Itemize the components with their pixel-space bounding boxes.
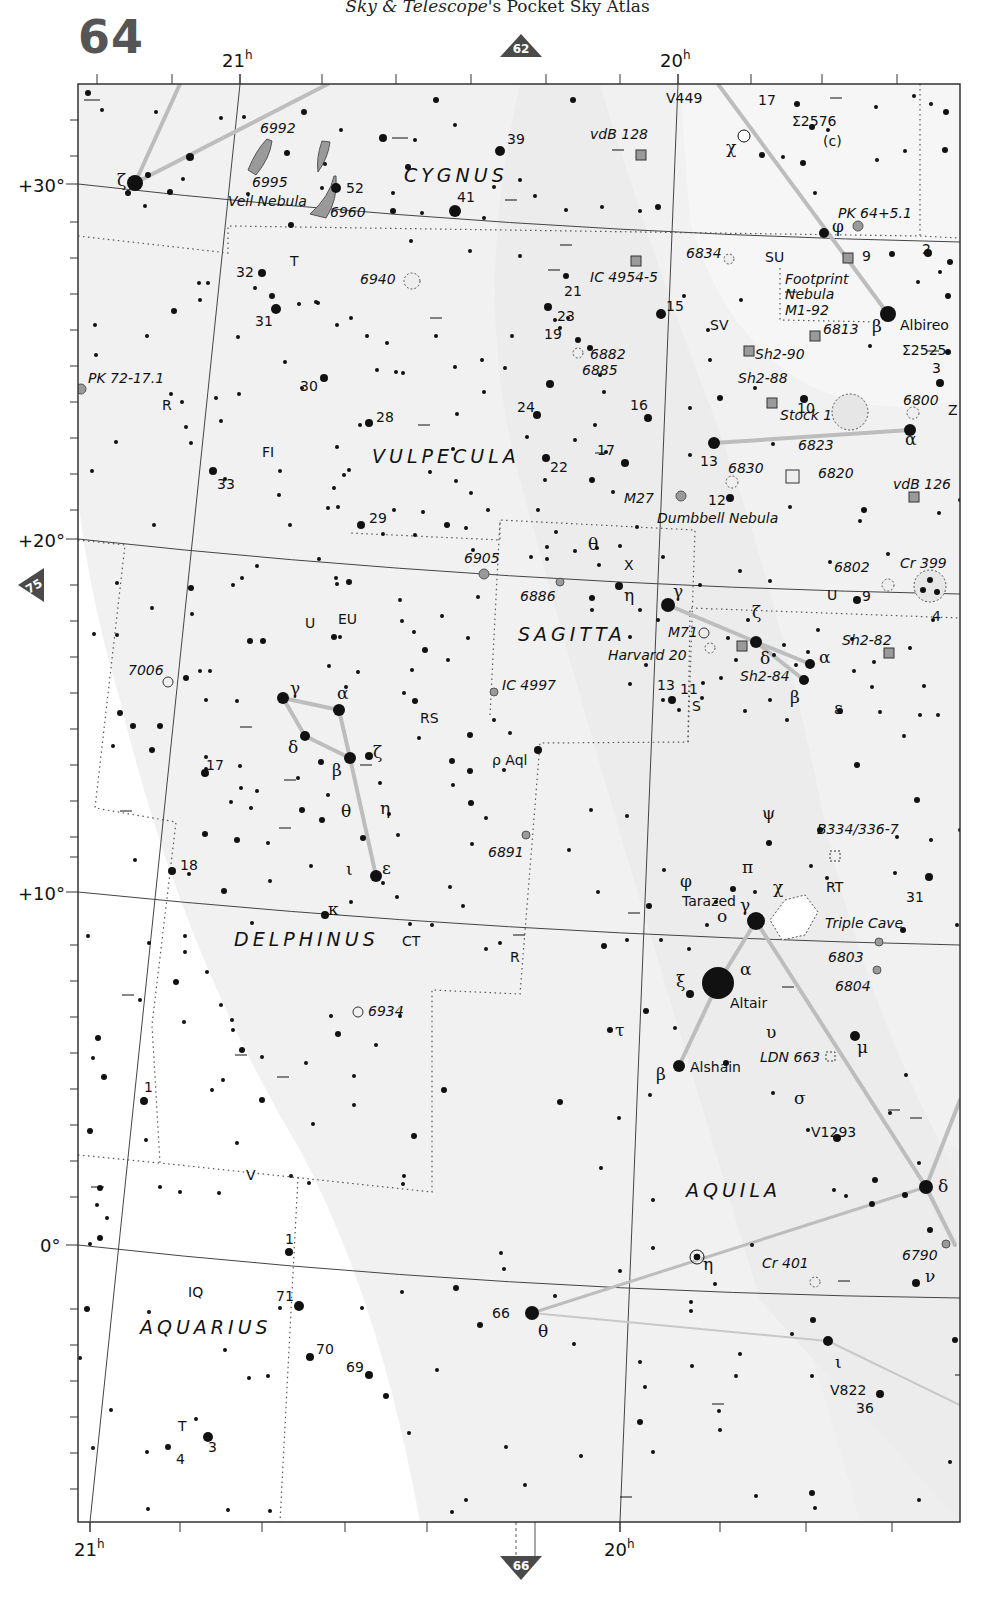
cluster-6800 xyxy=(907,407,919,419)
svg-text:ζ: ζ xyxy=(373,742,382,762)
svg-text:2: 2 xyxy=(922,241,931,257)
svg-text:β: β xyxy=(332,760,342,780)
svg-text:θ: θ xyxy=(341,801,351,821)
svg-text:M1-92: M1-92 xyxy=(785,302,829,318)
svg-text:Harvard 20: Harvard 20 xyxy=(608,647,687,663)
star-alpha-sge xyxy=(805,659,815,669)
svg-text:6992: 6992 xyxy=(260,120,296,136)
star-gamma-del xyxy=(277,692,289,704)
nebula-Sh2-90 xyxy=(744,346,754,356)
ra-label-bottom-21h: 21h xyxy=(74,1537,105,1560)
nebula-Sh2-84 xyxy=(737,641,747,651)
svg-text:ζ: ζ xyxy=(117,170,126,190)
svg-text:66: 66 xyxy=(492,1305,510,1321)
svg-text:μ: μ xyxy=(857,1037,868,1057)
svg-text:18: 18 xyxy=(180,857,198,873)
svg-text:32: 32 xyxy=(236,264,254,280)
svg-text:α: α xyxy=(819,647,831,667)
svg-text:B334/336-7: B334/336-7 xyxy=(817,821,899,837)
planetary-nebula-6891 xyxy=(522,831,530,839)
svg-text:6905: 6905 xyxy=(464,550,500,566)
star-delta-sge xyxy=(750,636,762,648)
svg-text:ζ: ζ xyxy=(752,602,761,622)
svg-text:Sh2-90: Sh2-90 xyxy=(755,346,805,362)
svg-text:CT: CT xyxy=(402,933,421,949)
svg-text:T: T xyxy=(177,1418,187,1434)
svg-text:(c): (c) xyxy=(823,133,842,149)
nav-up-page-62[interactable]: 62 xyxy=(500,34,542,57)
svg-text:R: R xyxy=(162,397,172,413)
svg-text:V449: V449 xyxy=(666,90,702,106)
svg-text:33: 33 xyxy=(217,476,235,492)
planetary-nebula-6803 xyxy=(875,938,883,946)
open-cluster-6940 xyxy=(404,273,420,289)
svg-text:6823: 6823 xyxy=(798,437,834,453)
svg-text:σ: σ xyxy=(794,1088,806,1108)
svg-text:22: 22 xyxy=(550,459,568,475)
cluster-6802 xyxy=(882,579,894,591)
svg-text:23: 23 xyxy=(557,308,575,324)
svg-text:M71: M71 xyxy=(668,624,698,640)
svg-text:13: 13 xyxy=(700,453,718,469)
svg-text:β: β xyxy=(656,1064,666,1084)
svg-text:6834: 6834 xyxy=(686,245,722,261)
ra-label-bottom-20h: 20h xyxy=(604,1537,635,1560)
dec-label-20: +20° xyxy=(18,530,65,551)
svg-text:PK 72-17.1: PK 72-17.1 xyxy=(88,370,164,386)
svg-text:δ: δ xyxy=(938,1176,948,1196)
constellation-vulpecula: VULPECULA xyxy=(372,445,520,467)
svg-text:Cr 399: Cr 399 xyxy=(900,555,947,571)
svg-text:1: 1 xyxy=(144,1079,153,1095)
svg-text:1: 1 xyxy=(285,1231,294,1247)
nebula-Sh2-82 xyxy=(884,648,894,658)
svg-text:3: 3 xyxy=(208,1439,217,1455)
label-albireo: Albireo xyxy=(900,317,949,333)
svg-text:6820: 6820 xyxy=(818,465,854,481)
svg-text:21: 21 xyxy=(564,283,582,299)
svg-text:17: 17 xyxy=(758,92,776,108)
star-alpha-del xyxy=(333,704,345,716)
label-altair: Altair xyxy=(730,995,767,1011)
planetary-nebula-M27 xyxy=(676,491,686,501)
svg-text:α: α xyxy=(337,683,349,703)
svg-text:9: 9 xyxy=(862,588,871,604)
svg-text:φ: φ xyxy=(832,216,844,236)
svg-text:ρ Aql: ρ Aql xyxy=(492,752,527,768)
svg-text:χ: χ xyxy=(773,877,783,897)
svg-text:Σ2576: Σ2576 xyxy=(792,113,837,129)
constellation-cygnus: CYGNUS xyxy=(404,164,508,186)
dec-label-0: 0° xyxy=(40,1235,60,1256)
svg-text:31: 31 xyxy=(255,313,273,329)
svg-text:α: α xyxy=(905,429,917,449)
svg-text:6804: 6804 xyxy=(835,978,871,994)
nav-down-page-66[interactable]: 66 xyxy=(500,1522,542,1580)
svg-text:11: 11 xyxy=(680,681,698,697)
nav-left-page-75[interactable]: 75 xyxy=(18,568,45,602)
svg-text:FI: FI xyxy=(262,444,274,460)
nebula-Sh2-88 xyxy=(767,398,777,408)
cluster-nebula-6820 xyxy=(786,470,799,483)
svg-text:Sh2-84: Sh2-84 xyxy=(740,668,790,684)
svg-text:3: 3 xyxy=(932,360,941,376)
svg-text:12: 12 xyxy=(708,492,726,508)
svg-text:13: 13 xyxy=(657,677,675,693)
svg-text:6813: 6813 xyxy=(823,321,859,337)
svg-text:Footprint: Footprint xyxy=(785,271,849,287)
svg-text:6940: 6940 xyxy=(360,271,396,287)
svg-text:6885: 6885 xyxy=(582,362,618,378)
star-albireo xyxy=(880,306,896,322)
svg-text:IC 4997: IC 4997 xyxy=(502,677,556,693)
svg-text:EU: EU xyxy=(338,611,357,627)
svg-text:4: 4 xyxy=(932,608,941,624)
svg-text:6802: 6802 xyxy=(834,559,870,575)
star-zeta-cyg xyxy=(127,175,143,191)
svg-text:ο: ο xyxy=(717,906,727,926)
svg-text:φ: φ xyxy=(680,871,692,891)
svg-text:16: 16 xyxy=(630,397,648,413)
svg-text:10: 10 xyxy=(797,400,815,416)
cluster-6830 xyxy=(726,476,738,488)
svg-text:71: 71 xyxy=(276,1288,294,1304)
svg-text:β: β xyxy=(790,687,800,707)
nebula-near-9 xyxy=(843,253,853,263)
svg-text:ε: ε xyxy=(382,858,391,878)
